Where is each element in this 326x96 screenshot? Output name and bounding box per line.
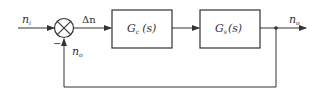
plant-label: Gs(s) — [215, 22, 242, 35]
block-diagram: ni − Δn Gc(s) Gs(s) no no — [0, 0, 326, 96]
error-label: Δn — [82, 14, 96, 25]
input-label: ni — [22, 13, 31, 26]
output-label: no — [289, 13, 300, 26]
feedback-path — [64, 28, 276, 87]
feedback-label: no — [72, 45, 83, 58]
minus-sign: − — [53, 38, 61, 49]
summing-junction — [55, 19, 74, 38]
controller-label: Gc(s) — [127, 22, 156, 35]
